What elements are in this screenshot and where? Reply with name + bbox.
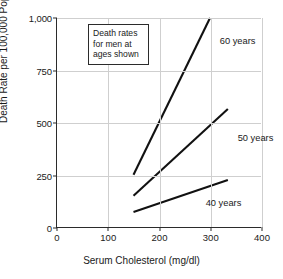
series-label-40-years: 40 years bbox=[206, 198, 242, 208]
annotation-line-3: ages shown bbox=[93, 49, 144, 60]
series-label-60-years: 60 years bbox=[220, 36, 256, 46]
annotation-line-1: Death rates bbox=[93, 28, 144, 39]
x-tick-label: 0 bbox=[54, 227, 59, 243]
series-line-50-years bbox=[134, 109, 228, 196]
annotation-line-2: for men at bbox=[93, 39, 144, 50]
y-tick-label: 750 bbox=[36, 65, 57, 76]
series-label-50-years: 50 years bbox=[238, 133, 274, 143]
chart-figure: Death Rate per 100,000 Population 025050… bbox=[0, 0, 283, 279]
x-tick-label: 300 bbox=[203, 227, 219, 243]
x-tick-label: 400 bbox=[254, 227, 270, 243]
gridline-vertical bbox=[262, 18, 263, 227]
annotation-note-box: Death rates for men at ages shown bbox=[88, 24, 149, 65]
y-axis-title: Death Rate per 100,000 Population bbox=[0, 0, 9, 123]
gridline-vertical bbox=[211, 18, 212, 227]
y-tick-label: 250 bbox=[36, 170, 57, 181]
x-axis-title: Serum Cholesterol (mg/dl) bbox=[0, 255, 283, 266]
plot-area: 02505007501,0000100200300400 bbox=[56, 18, 261, 228]
gridline-vertical bbox=[160, 18, 161, 227]
y-tick-label: 500 bbox=[36, 118, 57, 129]
x-tick-label: 200 bbox=[152, 227, 168, 243]
x-tick-label: 100 bbox=[100, 227, 116, 243]
y-tick-label: 1,000 bbox=[29, 13, 57, 24]
